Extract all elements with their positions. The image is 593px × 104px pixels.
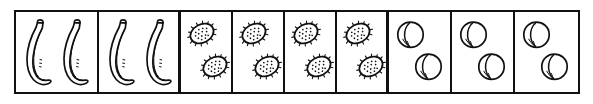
peach-icon: [476, 52, 507, 82]
grid-cell-1[interactable]: [16, 12, 99, 92]
fruit-grid: [14, 10, 580, 94]
kiwi-icon: [251, 52, 283, 81]
kiwi-icon: [355, 52, 387, 81]
grid-cell-5[interactable]: [285, 12, 337, 92]
kiwi-icon: [238, 19, 270, 48]
peach-icon: [521, 20, 552, 50]
kiwi-icon: [290, 19, 322, 48]
grid-cell-6[interactable]: [337, 12, 389, 92]
banana-icon: [107, 19, 138, 87]
peach-icon: [539, 52, 570, 82]
worksheet-canvas: [0, 0, 593, 104]
banana-icon: [24, 19, 55, 87]
kiwi-icon: [303, 52, 335, 81]
peach-icon: [458, 20, 489, 50]
kiwi-icon: [199, 52, 231, 81]
grid-cell-2[interactable]: [99, 12, 182, 92]
banana-icon: [61, 19, 92, 87]
kiwi-icon: [186, 19, 218, 48]
kiwi-icon: [342, 19, 374, 48]
grid-cell-8[interactable]: [452, 12, 515, 92]
peach-icon: [395, 20, 426, 50]
grid-cell-3[interactable]: [181, 12, 233, 92]
grid-cell-4[interactable]: [233, 12, 285, 92]
peach-icon: [413, 52, 444, 82]
grid-cell-9[interactable]: [515, 12, 578, 92]
banana-icon: [144, 19, 175, 87]
grid-cell-7[interactable]: [389, 12, 452, 92]
